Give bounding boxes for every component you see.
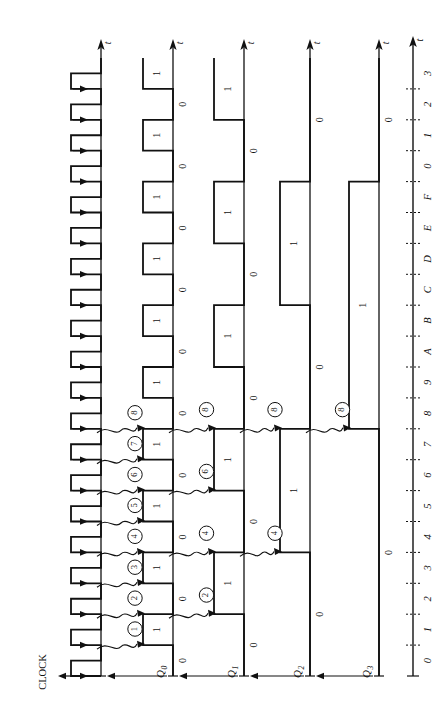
- callout-clock-q0-8: 8: [128, 406, 142, 420]
- q2-waveform: [280, 58, 310, 676]
- q0-label-sub: 0: [160, 665, 169, 669]
- time-tick-label: 5: [422, 503, 433, 508]
- time-tick-label: 0: [422, 657, 433, 663]
- callout-clock-q0-arrow-3-path: [97, 582, 137, 587]
- q2-value-label: 1: [288, 488, 299, 493]
- callout-clock-q0-3-text: 3: [129, 565, 139, 569]
- time-tick-label: 1: [422, 133, 433, 138]
- time-tick-label: 4: [422, 534, 433, 540]
- callout-clock-q0-arrow-6: [97, 486, 145, 494]
- callout-q2-q3-8-text: 8: [336, 408, 346, 412]
- q3-label-sub: 3: [366, 665, 375, 670]
- callout-q1-q2-arrow-4-path: [240, 551, 274, 556]
- q1-value-label: 1: [222, 210, 233, 215]
- timing-diagram-figure: t0123456789ABCDEF0123tCLOCKtQ00101010101…: [0, 0, 446, 718]
- q1-axis: t: [239, 39, 256, 676]
- q0-value-label: 0: [177, 164, 188, 169]
- callout-clock-q0-arrow-2: [97, 610, 145, 618]
- callout-q0-q1-6: 6: [199, 464, 213, 478]
- q0-value-label: 0: [177, 534, 188, 539]
- q3-waveform: [349, 58, 379, 676]
- callout-clock-q0-arrow-8: [97, 424, 145, 432]
- callout-clock-q0-5: 5: [128, 498, 142, 512]
- q0-axis: t: [168, 39, 185, 676]
- clock-axis-t-label: t: [103, 41, 113, 44]
- callout-clock-q0-arrow-5: [97, 517, 145, 525]
- time-tick-label: 2: [422, 595, 433, 601]
- q3-axis: t: [374, 39, 391, 676]
- q0-value-label: 1: [151, 565, 162, 570]
- time-tick-label: 9: [422, 379, 433, 385]
- q3-waveform-group: 010: [349, 58, 394, 676]
- q0-value-label: 1: [151, 380, 162, 385]
- q0-waveform-group: 01010101010101010101: [143, 58, 188, 676]
- q0-value-label: 1: [151, 195, 162, 200]
- clock-waveform-group: [71, 58, 101, 679]
- q2-value-label: 0: [314, 612, 325, 617]
- clock-label-arrow-head: [58, 673, 66, 679]
- callout-clock-q0-2-text: 2: [129, 596, 139, 600]
- callout-clock-q0-arrow-7-path: [97, 459, 137, 464]
- q1-value-label: 1: [222, 334, 233, 339]
- callout-clock-q0-3: 3: [128, 560, 142, 574]
- q2-value-label: 0: [314, 365, 325, 370]
- callout-q0-q1-2-text: 2: [200, 593, 210, 597]
- q0-value-label: 0: [177, 596, 188, 601]
- callout-q2-q3-8: 8: [335, 402, 349, 416]
- callout-clock-q0-arrow-5-path: [97, 521, 137, 526]
- callout-q0-q1-4: 4: [199, 526, 213, 540]
- q1-value-label: 0: [248, 148, 259, 153]
- q0-value-label: 0: [177, 473, 188, 478]
- callout-q0-q1-8-text: 8: [200, 408, 210, 412]
- q2-label-text: Q: [291, 670, 303, 678]
- callout-clock-q0-arrow-2-path: [97, 613, 137, 618]
- time-tick-label: 6: [422, 472, 433, 478]
- q0-value-label: 0: [177, 225, 188, 230]
- callout-clock-q0-7: 7: [128, 436, 142, 450]
- callout-clock-q0-arrow-7: [97, 455, 145, 463]
- q0-value-label: 0: [177, 287, 188, 292]
- callout-q1-q2-arrow-8-path: [240, 428, 274, 433]
- callout-clock-q0-arrow-1: [97, 641, 145, 649]
- q1-label-arrow-head: [179, 673, 187, 679]
- time-tick-label: E: [422, 224, 433, 232]
- callout-clock-q0-arrow-4: [97, 548, 145, 556]
- q2-label-arrow-head: [250, 673, 258, 679]
- time-axis-label: t: [414, 38, 425, 41]
- q1-value-label: 0: [248, 395, 259, 400]
- q0-value-label: 1: [151, 442, 162, 447]
- timing-diagram-svg: t0123456789ABCDEF0123tCLOCKtQ00101010101…: [0, 0, 446, 718]
- q1-axis-t-label: t: [246, 41, 256, 44]
- q0-axis-t-label: t: [175, 41, 185, 44]
- callout-clock-q0-1: 1: [128, 622, 142, 636]
- q2-axis: t: [305, 39, 322, 676]
- callout-q1-q2-4: 4: [268, 526, 282, 540]
- callout-clock-q0-arrow-8-path: [97, 428, 137, 433]
- q3-value-label: 0: [383, 117, 394, 122]
- callout-q0-q1-8: 8: [199, 402, 213, 416]
- q0-value-label: 1: [151, 318, 162, 323]
- callout-clock-q0-arrow-1-path: [97, 644, 137, 649]
- time-tick-label: 3: [422, 71, 433, 77]
- q1-label-sub: 1: [231, 666, 240, 670]
- callout-clock-q0-6-text: 6: [129, 472, 139, 476]
- q1-value-label: 0: [248, 643, 259, 648]
- q1-value-label: 0: [248, 519, 259, 524]
- time-tick-label: 0: [422, 163, 433, 169]
- time-tick-label: A: [422, 348, 433, 356]
- callout-clock-q0-6: 6: [128, 467, 142, 481]
- q0-value-label: 0: [177, 102, 188, 107]
- q0-value-label: 0: [177, 349, 188, 354]
- q0-label-arrow-head: [107, 673, 115, 679]
- q1-value-label: 1: [222, 457, 233, 462]
- q0-value-label: 1: [151, 627, 162, 632]
- callout-q2-q3-arrow-8-path: [306, 428, 343, 433]
- q2-value-label: 0: [314, 117, 325, 122]
- q0-value-label: 0: [177, 658, 188, 663]
- time-tick-label: 8: [422, 410, 433, 416]
- time-tick-label: B: [422, 317, 433, 324]
- q3-value-label: 1: [357, 303, 368, 308]
- time-tick-label: F: [422, 193, 433, 201]
- callout-q0-q1-arrow-8-path: [169, 428, 208, 433]
- callout-q1-q2-8: 8: [268, 402, 282, 416]
